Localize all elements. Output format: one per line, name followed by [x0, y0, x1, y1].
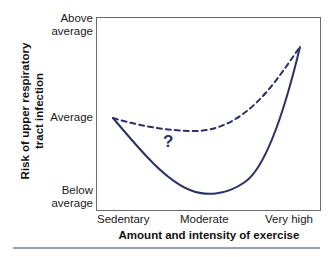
y-tick-above-average: Above average	[7, 12, 93, 37]
dashed-curve-path	[113, 47, 300, 131]
solid-curve-path	[113, 47, 300, 194]
question-mark-annotation: ?	[163, 133, 173, 151]
bottom-divider	[13, 247, 320, 249]
x-tick-very-high: Very high	[265, 212, 313, 226]
y-tick-below-average: Below average	[7, 184, 93, 209]
x-tick-sedentary: Sedentary	[97, 212, 149, 226]
x-axis-title: Amount and intensity of exercise	[96, 228, 322, 242]
chart-figure: Risk of upper respiratory tract infectio…	[0, 0, 332, 257]
x-tick-moderate: Moderate	[180, 212, 229, 226]
y-tick-average: Average	[7, 111, 93, 124]
